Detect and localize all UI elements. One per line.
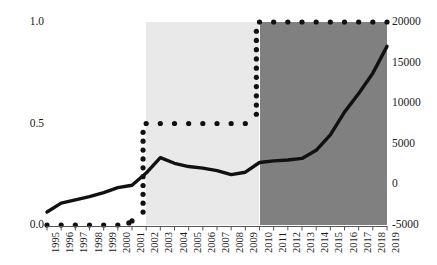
step-dot <box>229 121 234 126</box>
x-axis-year-label: 2003 <box>164 232 175 253</box>
step-dot <box>158 121 163 126</box>
step-dot <box>144 121 149 126</box>
step-dot <box>271 19 276 24</box>
step-dot <box>257 19 262 24</box>
right-axis-tick-label: 15000 <box>392 57 421 69</box>
step-dot <box>214 121 219 126</box>
x-axis-year-label: 1996 <box>65 232 76 253</box>
series-layer <box>47 22 387 225</box>
right-axis-tick-label: 10000 <box>392 97 421 109</box>
x-axis-year-label: 2011 <box>278 232 289 253</box>
x-axis-year-label: 2018 <box>377 232 388 253</box>
x-axis-year-label: 1995 <box>51 232 62 253</box>
step-dot <box>254 93 259 98</box>
right-axis-tick-label: -5000 <box>392 219 419 231</box>
step-dot <box>384 19 389 24</box>
step-dot <box>254 102 259 107</box>
step-dot <box>140 139 145 144</box>
chart-container: 0.00.51.0 -500005000100001500020000 1995… <box>0 0 437 265</box>
step-dot <box>140 209 145 214</box>
left-y-axis: 0.00.51.0 <box>0 0 44 265</box>
x-axis-year-label: 2016 <box>349 232 360 253</box>
step-dot <box>314 19 319 24</box>
step-dot <box>254 56 259 61</box>
x-axis-year-label: 2002 <box>150 232 161 253</box>
step-dot <box>285 19 290 24</box>
x-axis-year-label: 2006 <box>207 232 218 253</box>
x-axis-year-label: 2009 <box>249 232 260 253</box>
step-dot <box>254 47 259 52</box>
step-dot <box>299 19 304 24</box>
step-dot <box>342 19 347 24</box>
right-axis-tick-label: 5000 <box>392 138 415 150</box>
x-axis-year-label: 2000 <box>122 232 133 253</box>
solid-line-series <box>47 46 387 212</box>
x-axis-year-label: 2001 <box>136 232 147 253</box>
x-axis-year-label: 2013 <box>306 232 317 253</box>
x-axis-year-label: 2008 <box>235 232 246 253</box>
right-axis-tick-label: 0 <box>392 178 398 190</box>
step-dot <box>140 192 145 197</box>
step-dot <box>254 66 259 71</box>
step-dot <box>370 19 375 24</box>
step-dot <box>172 121 177 126</box>
plot-area <box>47 22 387 225</box>
step-dot <box>140 165 145 170</box>
step-dot <box>254 75 259 80</box>
x-axis: 1995199619971998199920002001200220032004… <box>47 226 387 265</box>
right-axis-tick-label: 20000 <box>392 16 421 28</box>
step-dot <box>254 112 259 117</box>
x-axis-year-label: 2010 <box>264 232 275 253</box>
step-dot <box>328 19 333 24</box>
step-dot <box>140 156 145 161</box>
x-axis-year-label: 2014 <box>320 232 331 253</box>
step-dot <box>186 121 191 126</box>
x-axis-year-label: 2007 <box>221 232 232 253</box>
left-axis-tick-label: 0.5 <box>30 118 44 130</box>
x-axis-year-label: 2005 <box>193 232 204 253</box>
step-dot <box>140 183 145 188</box>
step-dot <box>200 121 205 126</box>
step-dot <box>140 130 145 135</box>
x-axis-year-label: 2017 <box>363 232 374 253</box>
x-axis-year-label: 2004 <box>179 232 190 253</box>
step-dot <box>254 38 259 43</box>
x-axis-year-label: 2012 <box>292 232 303 253</box>
x-axis-year-label: 1999 <box>108 232 119 253</box>
right-y-axis: -500005000100001500020000 <box>392 0 437 265</box>
step-dot <box>140 174 145 179</box>
step-dot <box>254 84 259 89</box>
x-axis-year-label: 2015 <box>334 232 345 253</box>
left-axis-tick-label: 1.0 <box>30 16 44 28</box>
x-axis-year-label: 2019 <box>391 232 402 253</box>
step-dot <box>254 29 259 34</box>
step-dot <box>140 147 145 152</box>
x-axis-year-label: 1998 <box>94 232 105 253</box>
step-dot <box>129 218 134 223</box>
x-axis-year-label: 1997 <box>79 232 90 253</box>
step-dot <box>356 19 361 24</box>
step-dot <box>140 201 145 206</box>
step-dot <box>243 121 248 126</box>
left-axis-tick-label: 0.0 <box>30 219 44 231</box>
